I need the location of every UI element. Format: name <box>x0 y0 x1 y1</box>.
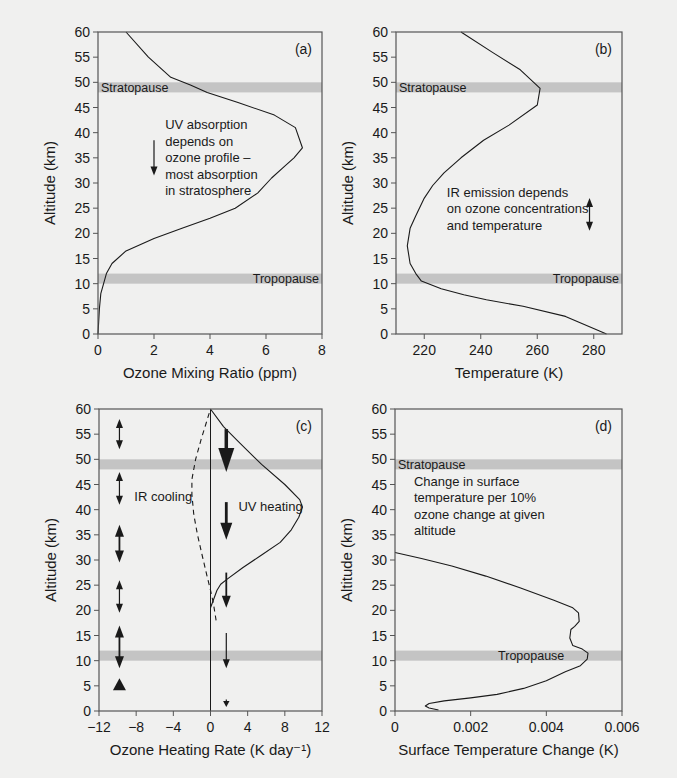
y-tick-label: 35 <box>372 150 388 166</box>
y-tick-label: 20 <box>74 225 90 241</box>
y-axis-title: Altitude (km) <box>339 141 356 225</box>
x-tick-label: 0 <box>94 342 102 358</box>
y-tick-label: 5 <box>379 678 387 694</box>
figure-background <box>0 0 677 778</box>
x-tick-label: 0.002 <box>453 719 488 735</box>
y-tick-label: 40 <box>372 125 388 141</box>
y-tick-label: 25 <box>372 200 388 216</box>
annotation-text: IR cooling <box>134 489 192 504</box>
x-tick-label: 260 <box>526 342 550 358</box>
y-axis-title: Altitude (km) <box>42 518 59 602</box>
y-tick-label: 5 <box>83 678 91 694</box>
y-tick-label: 5 <box>380 301 388 317</box>
y-tick-label: 45 <box>74 100 90 116</box>
annotation-line: on ozone concentrations <box>447 201 589 216</box>
x-tick-label: 0 <box>207 719 215 735</box>
x-tick-label: 0.006 <box>604 719 639 735</box>
annotation-text: UV absorptiondepends onozone profile –mo… <box>165 117 258 198</box>
x-tick-label: 220 <box>413 342 437 358</box>
y-tick-label: 25 <box>371 577 387 593</box>
annotation-line: ozone change at given <box>414 507 545 522</box>
x-tick-label: 4 <box>206 342 214 358</box>
y-tick-label: 15 <box>74 251 90 267</box>
annotation-text: UV heating <box>238 499 302 514</box>
annotation-line: UV heating <box>238 499 302 514</box>
ozone-figure: StratopauseTropopause0510152025303540455… <box>0 0 677 778</box>
annotation-line: most absorption <box>165 167 258 182</box>
x-tick-label: 8 <box>318 342 326 358</box>
y-tick-label: 50 <box>371 451 387 467</box>
y-tick-label: 60 <box>372 24 388 40</box>
x-tick-label: −4 <box>165 719 181 735</box>
stratopause-label: Stratopause <box>398 458 465 472</box>
y-tick-label: 20 <box>371 602 387 618</box>
x-tick-label: 6 <box>262 342 270 358</box>
y-tick-label: 40 <box>371 502 387 518</box>
y-tick-label: 30 <box>371 552 387 568</box>
y-tick-label: 60 <box>74 24 90 40</box>
y-tick-label: 30 <box>74 175 90 191</box>
x-tick-label: 280 <box>582 342 606 358</box>
y-tick-label: 40 <box>74 125 90 141</box>
y-tick-label: 45 <box>75 477 91 493</box>
annotation-line: ozone profile – <box>165 150 251 165</box>
y-tick-label: 30 <box>75 552 91 568</box>
y-tick-label: 0 <box>380 326 388 342</box>
y-tick-label: 35 <box>75 527 91 543</box>
annotation-line: IR cooling <box>134 489 192 504</box>
y-tick-label: 50 <box>74 74 90 90</box>
annotation-line: in stratosphere <box>165 183 251 198</box>
y-tick-label: 45 <box>372 100 388 116</box>
x-axis-title: Surface Temperature Change (K) <box>398 741 619 758</box>
x-axis-title: Ozone Mixing Ratio (ppm) <box>123 364 297 381</box>
y-axis-title: Altitude (km) <box>338 518 355 602</box>
x-axis-title: Temperature (K) <box>455 364 563 381</box>
x-tick-label: 4 <box>244 719 252 735</box>
y-tick-label: 10 <box>75 653 91 669</box>
y-tick-label: 50 <box>372 74 388 90</box>
y-tick-label: 0 <box>82 326 90 342</box>
x-tick-label: −12 <box>87 719 111 735</box>
y-tick-label: 15 <box>75 628 91 644</box>
y-tick-label: 25 <box>75 577 91 593</box>
y-tick-label: 5 <box>82 301 90 317</box>
y-tick-label: 15 <box>372 251 388 267</box>
x-tick-label: 12 <box>314 719 330 735</box>
y-tick-label: 45 <box>371 477 387 493</box>
y-tick-label: 55 <box>75 426 91 442</box>
y-tick-label: 25 <box>74 200 90 216</box>
x-tick-label: 240 <box>469 342 493 358</box>
panel-label: (d) <box>595 418 612 434</box>
stratopause-label: Stratopause <box>399 81 466 95</box>
y-tick-label: 0 <box>379 703 387 719</box>
y-axis-title: Altitude (km) <box>41 141 58 225</box>
tropopause-label: Tropopause <box>498 649 564 663</box>
y-tick-label: 60 <box>75 401 91 417</box>
y-tick-label: 0 <box>83 703 91 719</box>
panel-label: (a) <box>295 41 312 57</box>
y-tick-label: 10 <box>372 276 388 292</box>
stratopause-label: Stratopause <box>101 81 168 95</box>
annotation-line: altitude <box>414 523 456 538</box>
panel-label: (b) <box>595 41 612 57</box>
y-tick-label: 20 <box>372 225 388 241</box>
annotation-line: temperature per 10% <box>414 490 537 505</box>
x-tick-label: 2 <box>150 342 158 358</box>
tropopause-label: Tropopause <box>553 272 619 286</box>
y-tick-label: 10 <box>74 276 90 292</box>
y-tick-label: 20 <box>75 602 91 618</box>
x-tick-label: −8 <box>128 719 144 735</box>
y-tick-label: 30 <box>372 175 388 191</box>
y-tick-label: 60 <box>371 401 387 417</box>
y-tick-label: 55 <box>372 49 388 65</box>
y-tick-label: 10 <box>371 653 387 669</box>
y-tick-label: 15 <box>371 628 387 644</box>
annotation-line: UV absorption <box>165 117 247 132</box>
y-tick-label: 55 <box>74 49 90 65</box>
x-axis-title: Ozone Heating Rate (K day⁻¹) <box>110 741 311 758</box>
y-tick-label: 55 <box>371 426 387 442</box>
y-tick-label: 35 <box>371 527 387 543</box>
panel-label: (c) <box>296 418 312 434</box>
x-tick-label: 0.004 <box>529 719 564 735</box>
annotation-line: and temperature <box>447 218 542 233</box>
